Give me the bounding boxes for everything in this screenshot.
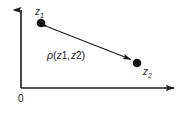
metric-distance-figure: z1 z2 ρ(z1, z2) 0 — [0, 0, 184, 125]
rho-separator: , — [67, 50, 70, 61]
figure-canvas — [0, 0, 184, 125]
close-paren: ) — [81, 49, 85, 61]
point-label-z2-subscript: 2 — [148, 72, 152, 79]
point-z1 — [37, 19, 46, 28]
origin-label: 0 — [18, 94, 24, 104]
distance-function-label: ρ(z1, z2) — [47, 50, 85, 61]
point-z2 — [133, 59, 142, 68]
point-label-z1: z1 — [35, 7, 44, 19]
point-label-z1-subscript: 1 — [40, 12, 44, 19]
point-label-z2: z2 — [143, 67, 152, 79]
